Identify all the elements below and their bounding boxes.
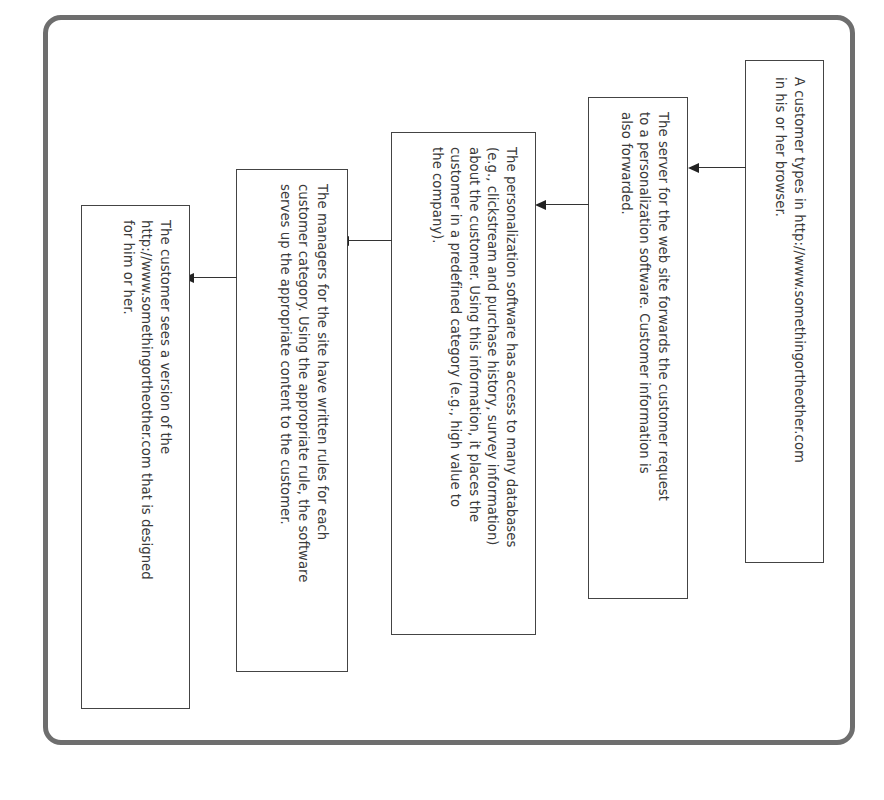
arrow-4-to-5: [185, 277, 237, 278]
step-1-text: A customer types in http://www.something…: [771, 77, 808, 557]
step-4-box: The managers for the site have written r…: [236, 169, 348, 672]
step-2-box: The server for the web site forwards the…: [588, 97, 688, 599]
step-3-text: The personalization software has access …: [427, 147, 520, 627]
step-2-text: The server for the web site forwards the…: [616, 112, 672, 592]
step-4-text: The managers for the site have written r…: [275, 184, 331, 664]
step-5-text: The customer sees a version of the http:…: [118, 220, 174, 700]
step-5-box: The customer sees a version of the http:…: [81, 205, 190, 709]
arrowhead-icon: [535, 200, 546, 210]
step-3-box: The personalization software has access …: [391, 132, 536, 635]
step-1-box: A customer types in http://www.something…: [745, 60, 824, 563]
arrow-1-to-2: [690, 167, 746, 168]
arrowhead-icon: [688, 163, 699, 173]
arrow-2-to-3: [537, 204, 589, 205]
